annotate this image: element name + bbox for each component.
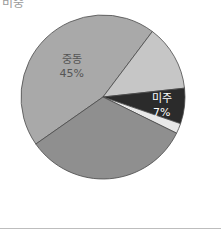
slice-label-name: 미주	[152, 92, 172, 105]
pie-chart: 중동45%미주7%	[0, 0, 221, 231]
slice-label-name: 중동	[62, 53, 82, 66]
slice-label-percent: 45%	[59, 67, 83, 80]
slice-label-percent: 7%	[153, 106, 170, 119]
bottom-divider	[0, 228, 221, 229]
